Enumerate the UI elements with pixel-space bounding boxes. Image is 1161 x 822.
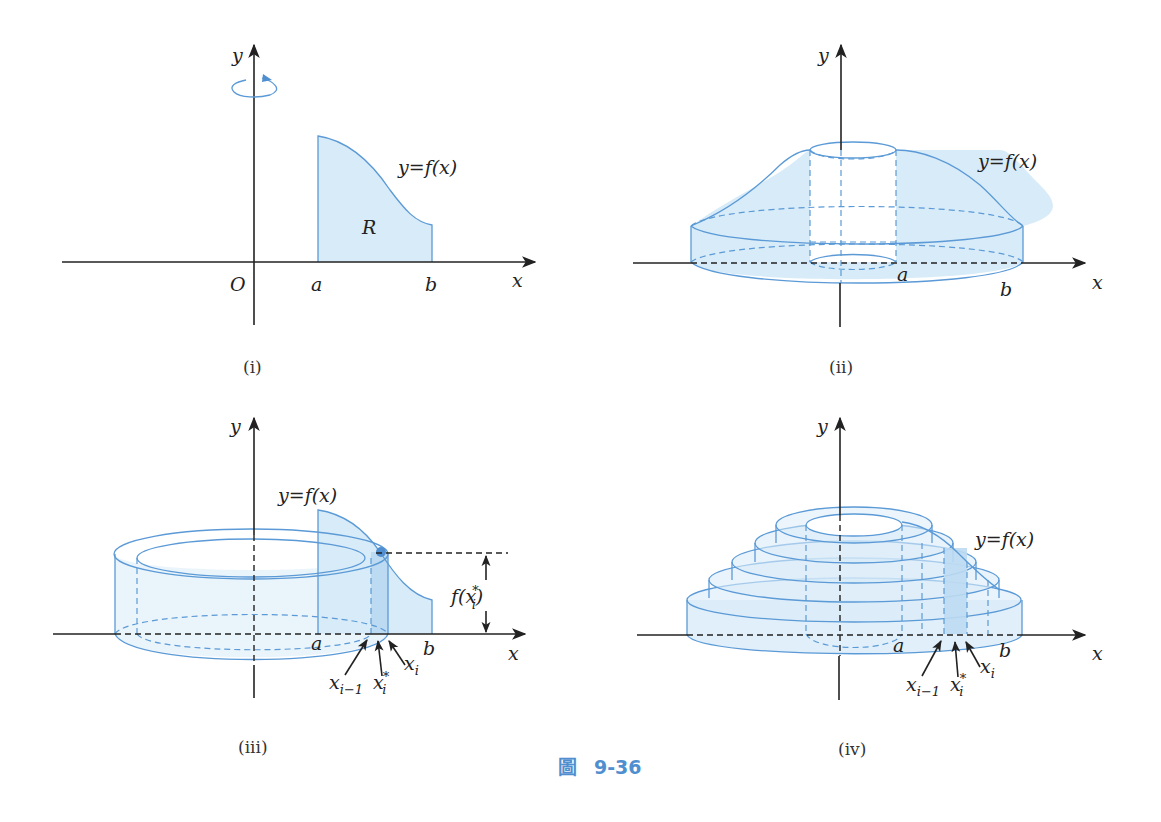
height-label: f(x*i) (449, 583, 483, 612)
a-label: a (893, 634, 904, 656)
panel-iv: y x a b y=f(x) xi−1 x*i xi (iv) (637, 415, 1103, 759)
curve-label: y=f(x) (277, 484, 337, 506)
shell-stack (687, 507, 1022, 654)
x-star-label: x*i (950, 671, 967, 699)
x-axis-label: x (1092, 642, 1103, 664)
a-label: a (311, 632, 322, 654)
y-axis-label: y (817, 44, 829, 66)
curve-label: y=f(x) (977, 150, 1037, 172)
x-prev-label: xi−1 (906, 673, 940, 699)
x-axis-label: x (1092, 271, 1103, 293)
y-axis-label: y (816, 415, 828, 437)
origin-label: O (230, 273, 246, 295)
b-label: b (423, 637, 435, 659)
a-label: a (311, 273, 322, 295)
panel-label: (iv) (838, 739, 866, 759)
shell-slice (371, 552, 388, 634)
panel-i: y x O a b y=f(x) R (i) (62, 44, 535, 377)
b-label: b (425, 273, 437, 295)
region-r (318, 136, 432, 262)
b-label: b (1000, 278, 1012, 300)
pointer-x-i (389, 641, 405, 665)
x-i-label: xi (404, 652, 419, 678)
x-star-label: x*i (373, 669, 390, 697)
caption-number: 9-36 (594, 756, 642, 778)
b-label: b (999, 639, 1011, 661)
region-label: R (361, 216, 376, 238)
sample-point (376, 547, 386, 557)
panel-label: (iii) (238, 737, 268, 757)
x-axis-label: x (508, 642, 519, 664)
panel-ii: y x a b y=f(x) (ii) (633, 44, 1103, 377)
x-axis-label: x (512, 269, 523, 291)
x-i-label: xi (980, 655, 995, 681)
figure-caption: 圖 9-36 (558, 756, 642, 778)
caption-glyph: 圖 (558, 756, 577, 778)
panel-label: (ii) (829, 357, 853, 377)
panel-iii: f(x*i) y x a b y=f(x) xi−1 x*i xi (iii) (53, 415, 525, 757)
panel-label: (i) (243, 357, 262, 377)
curve-label: y=f(x) (974, 528, 1034, 550)
y-axis-label: y (229, 415, 241, 437)
curve-label: y=f(x) (397, 156, 457, 178)
y-axis-label: y (231, 44, 243, 66)
shell-slice (944, 548, 967, 634)
figure-canvas: y x O a b y=f(x) R (i) (0, 0, 1161, 822)
a-label: a (897, 263, 908, 285)
x-prev-label: xi−1 (329, 671, 363, 697)
